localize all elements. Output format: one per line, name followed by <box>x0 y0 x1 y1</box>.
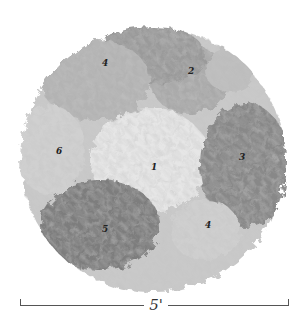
zone-label-2: 2 <box>188 66 194 76</box>
zone-label-4-lower: 4 <box>205 220 211 230</box>
scale-bar-left-tick <box>20 299 21 306</box>
colony-disc <box>15 25 290 292</box>
scale-bar-right-tick <box>288 299 289 306</box>
zone-label-3: 3 <box>239 152 245 162</box>
zone-label-4-upper: 4 <box>102 58 108 68</box>
scale-bar-label: 5' <box>144 296 168 314</box>
texture-overlay <box>21 28 285 292</box>
zone-label-6: 6 <box>56 146 62 156</box>
zone-label-1: 1 <box>151 162 157 172</box>
zone-label-5: 5 <box>102 224 108 234</box>
